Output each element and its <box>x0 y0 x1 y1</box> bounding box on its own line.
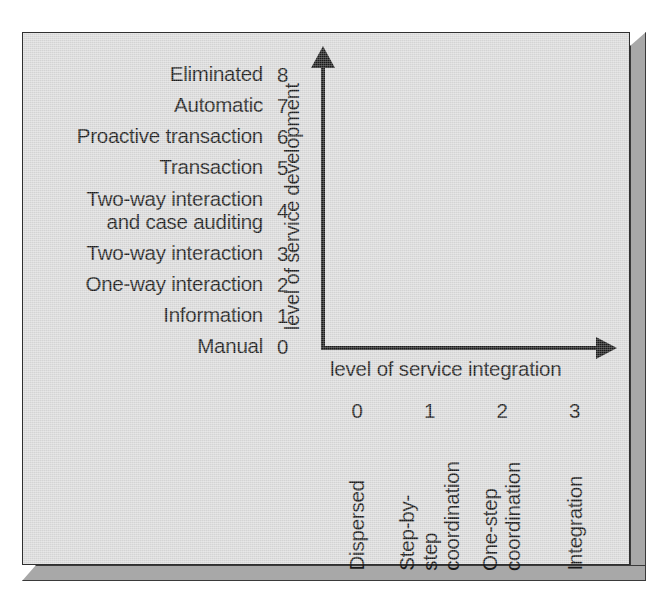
figure-panel: level of service development Eliminated … <box>22 32 630 565</box>
y-axis-line <box>321 63 325 350</box>
x-axis-level: 0 Dispersed <box>321 397 394 571</box>
y-axis-level-label: Manual <box>197 335 277 358</box>
y-axis-scale: Eliminated 8 Automatic 7 Proactive trans… <box>33 59 295 362</box>
y-axis-level-label: Two-way interaction and case auditing <box>87 188 277 234</box>
x-axis-level-label-slot: One-step coordination <box>489 439 515 571</box>
x-axis-level: 2 One-step coordination <box>466 397 539 571</box>
x-axis-level-label-slot: Integration <box>562 439 588 571</box>
y-axis-level-label: One-way interaction <box>85 273 277 296</box>
x-axis-line <box>321 346 598 350</box>
x-axis-level-value: 3 <box>569 397 580 425</box>
x-axis-level: 1 Step-by-step coordination <box>394 397 467 571</box>
frame-bevel-right <box>630 32 646 581</box>
y-axis-level-value: 2 <box>277 273 295 297</box>
y-axis-level-value: 4 <box>277 199 295 223</box>
y-axis-level-value: 0 <box>277 335 295 359</box>
y-axis-level-label: Two-way interaction <box>87 242 277 265</box>
y-axis-level-label: Automatic <box>174 94 277 117</box>
y-axis-level: Manual 0 <box>33 331 295 362</box>
x-axis-level-label-slot: Step-by-step coordination <box>417 439 443 571</box>
arrow-up-icon <box>311 46 335 68</box>
x-axis-level-label: Step-by-step coordination <box>396 462 464 571</box>
plot-area: level of service development Eliminated … <box>23 33 631 566</box>
y-axis-level: Transaction 5 <box>33 152 295 183</box>
y-axis-level: Two-way interaction and case auditing 4 <box>33 183 295 238</box>
y-axis-level: Information 1 <box>33 300 295 331</box>
y-axis-level-value: 5 <box>277 156 295 180</box>
y-axis-level-value: 6 <box>277 125 295 149</box>
figure-frame: level of service development Eliminated … <box>22 32 646 581</box>
y-axis-level-value: 8 <box>277 63 295 87</box>
x-axis-level-label: Dispersed <box>346 481 369 572</box>
y-axis-level-label: Information <box>163 304 277 327</box>
y-axis-level: Two-way interaction 3 <box>33 238 295 269</box>
y-axis-level-label: Eliminated <box>170 63 277 86</box>
y-axis-level-value: 7 <box>277 94 295 118</box>
y-axis-level: Proactive transaction 6 <box>33 121 295 152</box>
x-axis-level-value: 2 <box>497 397 508 425</box>
x-axis-level-value: 0 <box>352 397 363 425</box>
x-axis-scale: 0 Dispersed 1 Step-by-step coordination … <box>321 397 611 571</box>
arrow-right-icon <box>596 337 617 359</box>
y-axis-level-label: Proactive transaction <box>77 125 277 148</box>
y-axis-level-label: Transaction <box>159 156 277 179</box>
x-axis-level-label-slot: Dispersed <box>344 439 370 571</box>
y-axis-level: Eliminated 8 <box>33 59 295 90</box>
y-axis-level-value: 1 <box>277 304 295 328</box>
x-axis-level-label: One-step coordination <box>480 462 525 571</box>
x-axis-title: level of service integration <box>330 357 561 381</box>
y-axis-level-value: 3 <box>277 242 295 266</box>
x-axis-level: 3 Integration <box>539 397 612 571</box>
x-axis-level-label: Integration <box>563 476 586 571</box>
y-axis-level: Automatic 7 <box>33 90 295 121</box>
x-axis-level-value: 1 <box>424 397 435 425</box>
y-axis-level: One-way interaction 2 <box>33 269 295 300</box>
